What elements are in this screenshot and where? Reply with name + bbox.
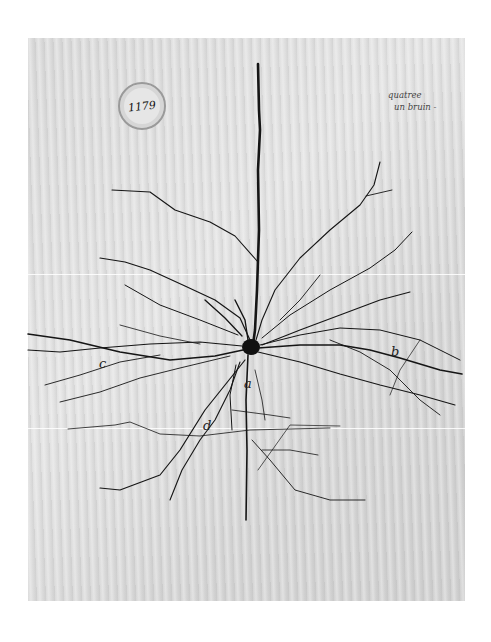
- handwritten-note-line2: un bruin -: [394, 102, 436, 112]
- handwritten-note-line1: quatree: [388, 90, 422, 100]
- label-d: d: [203, 418, 211, 433]
- label-a: a: [244, 376, 252, 391]
- soma: [242, 339, 260, 355]
- label-b: b: [391, 344, 399, 359]
- label-c: c: [99, 356, 106, 371]
- apical-dendrite: [253, 64, 260, 345]
- stamp-number: 1179: [127, 98, 156, 114]
- archive-stamp: 1179: [118, 82, 166, 130]
